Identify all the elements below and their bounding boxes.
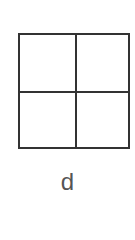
figure-label: d	[0, 168, 135, 196]
two-by-two-grid	[18, 33, 130, 149]
grid-horizontal-divider	[20, 91, 128, 93]
